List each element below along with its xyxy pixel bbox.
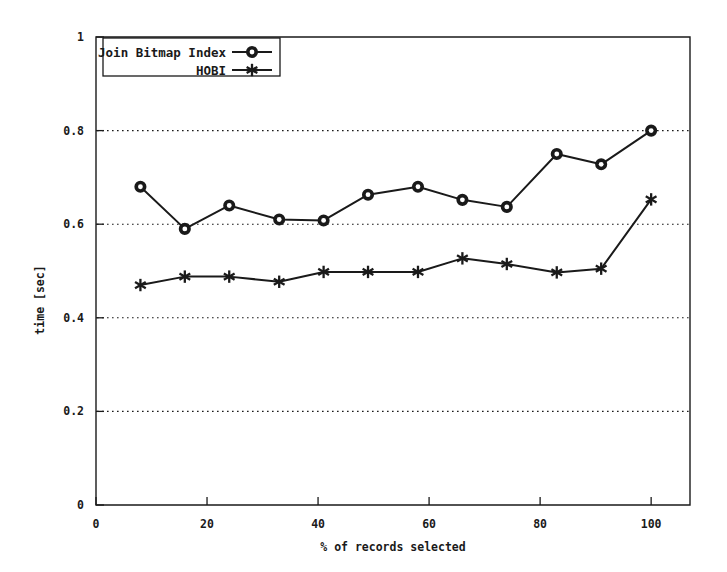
x-tick-label: 100: [641, 517, 662, 531]
x-tick-label: 20: [200, 517, 214, 531]
marker-circle-center: [227, 203, 232, 208]
marker-circle-center: [599, 162, 604, 167]
x-tick-label: 40: [311, 517, 325, 531]
y-axis-title: time [sec]: [33, 265, 47, 334]
x-axis-ticks: 020406080100: [93, 497, 662, 531]
legend: Join Bitmap IndexHOBI: [98, 38, 280, 78]
legend-label-hobi: HOBI: [196, 63, 226, 78]
line-chart: 00.20.40.60.81 020406080100 time [sec] %…: [0, 0, 727, 572]
marker-circle-center: [182, 226, 187, 231]
series-polyline: [140, 131, 651, 229]
chart-container: 00.20.40.60.81 020406080100 time [sec] %…: [0, 0, 727, 572]
marker-circle-center: [649, 128, 654, 133]
marker-circle-center: [504, 204, 509, 209]
marker-circle-center: [554, 152, 559, 157]
y-tick-label: 0: [77, 498, 84, 512]
x-axis-title: % of records selected: [320, 540, 465, 554]
marker-circle-center: [416, 184, 421, 189]
y-tick-label: 1: [77, 30, 84, 44]
x-tick-label: 60: [422, 517, 436, 531]
y-axis-ticks: 00.20.40.60.81: [63, 30, 104, 512]
x-tick-label: 0: [93, 517, 100, 531]
data-series: [135, 126, 656, 292]
marker-circle-center: [277, 217, 282, 222]
y-tick-label: 0.8: [63, 124, 84, 138]
series-join-bitmap-index: [135, 126, 656, 234]
marker-circle-center: [460, 197, 465, 202]
marker-circle-center: [366, 192, 371, 197]
marker-circle-center: [138, 184, 143, 189]
y-tick-label: 0.2: [63, 404, 84, 418]
legend-label-join-bitmap-index: Join Bitmap Index: [98, 45, 226, 60]
y-tick-label: 0.6: [63, 217, 84, 231]
series-hobi: [135, 193, 656, 291]
marker-circle-center: [321, 218, 326, 223]
x-tick-label: 80: [533, 517, 547, 531]
y-tick-label: 0.4: [63, 311, 84, 325]
marker-circle-center: [250, 50, 255, 55]
